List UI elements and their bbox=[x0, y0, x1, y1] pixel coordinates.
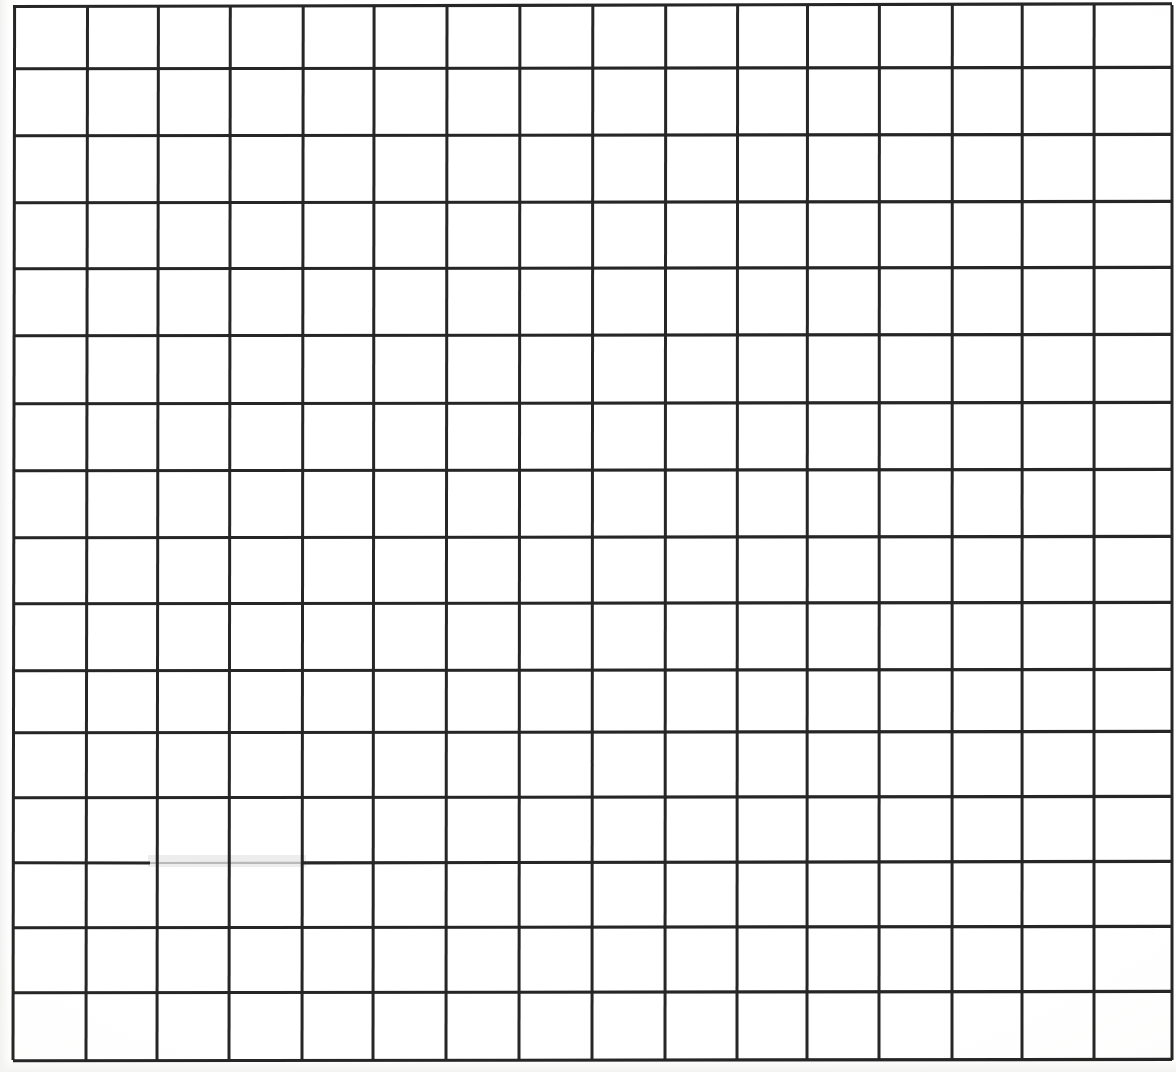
grid-line-vertical bbox=[737, 5, 738, 1060]
grid-line-vertical bbox=[592, 5, 593, 1060]
grid-line-vertical bbox=[86, 5, 88, 1060]
smudge-patch bbox=[148, 855, 306, 867]
grid-line-vertical bbox=[807, 5, 808, 1060]
grid-line-vertical bbox=[157, 5, 158, 1060]
grid-line-vertical bbox=[519, 5, 520, 1060]
grid-line-vertical bbox=[302, 5, 303, 1060]
grid-graph-paper bbox=[0, 0, 1176, 1072]
grid-line-vertical bbox=[229, 5, 230, 1060]
grid-line-vertical bbox=[13, 5, 15, 1060]
grid-line-vertical bbox=[373, 5, 374, 1060]
grid-line-vertical bbox=[446, 5, 447, 1060]
grid-line-vertical bbox=[665, 5, 666, 1060]
grid-vertical-lines bbox=[13, 5, 1172, 1060]
scanned-page bbox=[0, 0, 1176, 1072]
